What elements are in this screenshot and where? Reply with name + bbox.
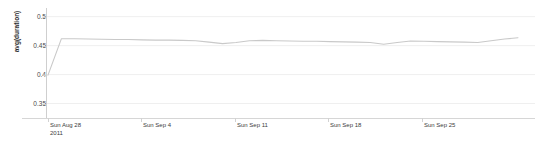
- x-tick-mark: [328, 118, 329, 122]
- y-tick-mark: [43, 75, 46, 76]
- y-tick-mark: [43, 46, 46, 47]
- x-tick-label: Sun Aug 28 2011: [50, 122, 81, 137]
- x-tick-label: Sun Sep 4: [143, 122, 171, 130]
- y-tick-mark: [43, 104, 46, 105]
- x-tick-label: Sun Sep 25: [424, 122, 455, 130]
- line-chart: avg(duration) 0.5 0.45 0.4 0.35 Sun Aug …: [0, 0, 540, 151]
- data-line-series: [48, 38, 518, 75]
- y-axis-title: avg(duration): [13, 0, 20, 70]
- y-tick-mark: [43, 17, 46, 18]
- x-tick-mark: [48, 118, 49, 122]
- plot-area: [47, 8, 535, 118]
- x-tick-label: Sun Sep 18: [330, 122, 361, 130]
- x-axis-line: [22, 118, 535, 119]
- x-tick-mark: [141, 118, 142, 122]
- gridlines: [47, 17, 535, 104]
- x-tick-label: Sun Sep 11: [237, 122, 268, 130]
- x-tick-mark: [235, 118, 236, 122]
- x-tick-mark: [422, 118, 423, 122]
